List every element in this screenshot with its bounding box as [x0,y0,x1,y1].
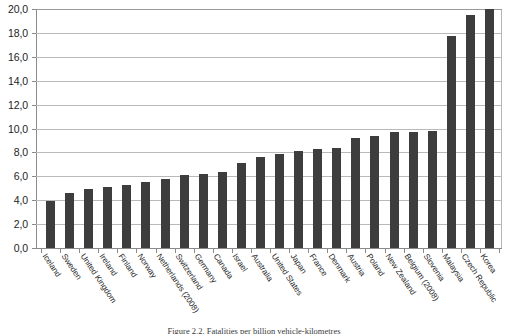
y-axis-tick-label: 6,0 [0,171,28,181]
y-axis-tick-label: 4,0 [0,195,28,205]
bars-group [36,9,502,249]
x-axis-label: Israel [231,252,249,273]
bar [256,157,265,248]
y-axis-tick-label: 18,0 [0,28,28,38]
bar [122,185,131,248]
bar [313,149,322,248]
y-axis-tick-label: 10,0 [0,124,28,134]
bar [351,138,360,248]
bar [447,36,456,248]
bar [103,187,112,248]
figure-caption: Figure 2.2. Fatalities per billion vehic… [0,326,508,334]
bar [199,174,208,248]
y-axis-tick-label: 2,0 [0,219,28,229]
bar [485,9,494,248]
y-axis-tick-label: 20,0 [0,4,28,14]
bar [141,182,150,248]
bar-chart-figure: 20,018,016,014,012,010,08,06,04,02,00,0 … [0,0,508,334]
y-axis-tick-label: 8,0 [0,147,28,157]
y-axis-tick-label: 0,0 [0,243,28,253]
bar [428,131,437,248]
bar [46,201,55,248]
bar [390,132,399,248]
bar [275,154,284,248]
bar [65,193,74,248]
x-axis-label: Korea [479,252,499,275]
y-axis-tick-label: 16,0 [0,52,28,62]
bar [237,163,246,248]
bar [84,189,93,248]
bar [409,132,418,248]
bar [161,179,170,248]
x-axis-labels-group: IcelandSwedenUnited KingdomIrelandFinlan… [36,252,506,328]
y-axis-tick-label: 12,0 [0,100,28,110]
bar [332,148,341,248]
bar [370,136,379,248]
bar [180,175,189,248]
bar [294,151,303,248]
x-axis-label: Japan [289,252,309,275]
x-axis-label: United Kingdom [79,252,119,305]
bar [466,15,475,248]
plot-area: 20,018,016,014,012,010,08,06,04,02,00,0 [36,9,502,249]
bar [218,172,227,248]
y-axis-tick-label: 14,0 [0,76,28,86]
